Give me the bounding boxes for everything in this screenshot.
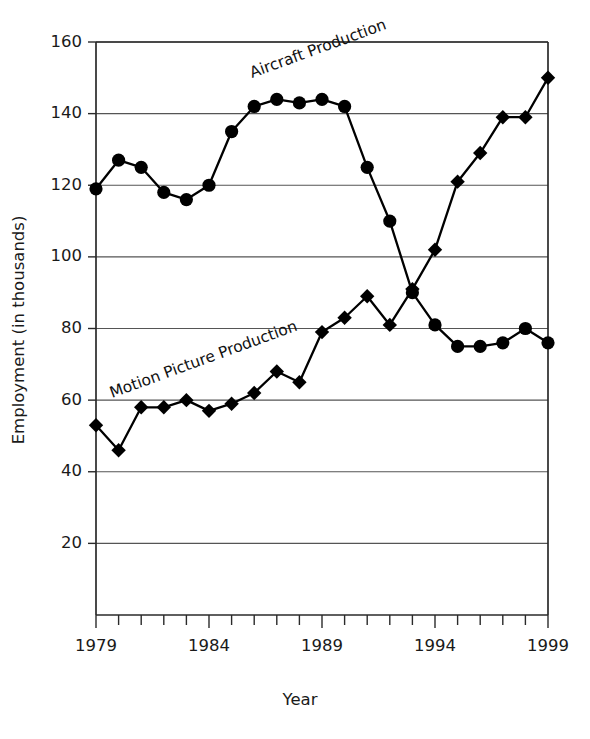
data-point-1982 — [157, 186, 170, 199]
gridline-group — [96, 42, 548, 543]
x-tick-label-1984: 1984 — [188, 636, 230, 655]
data-point-1998 — [519, 322, 532, 335]
data-point-1979 — [89, 182, 102, 195]
data-point-1997 — [496, 336, 509, 349]
series-annotation-group: Aircraft ProductionMotion Picture Produc… — [107, 16, 388, 402]
data-point-1990 — [338, 100, 351, 113]
data-point-1988 — [292, 375, 306, 389]
y-tick-label-120: 120 — [51, 175, 83, 194]
data-point-1995 — [451, 340, 464, 353]
series-line — [96, 78, 548, 450]
x-axis-title: Year — [282, 690, 318, 709]
series-label-motion-picture-production: Motion Picture Production — [107, 317, 299, 402]
x-tick-label-1989: 1989 — [301, 636, 343, 655]
y-tick-label-100: 100 — [51, 246, 83, 265]
x-tick-label-1994: 1994 — [414, 636, 456, 655]
y-tick-label-60: 60 — [61, 390, 82, 409]
data-point-1981 — [134, 400, 148, 414]
data-point-1997 — [496, 110, 510, 124]
y-tick-group: 20406080100120140160 — [51, 32, 97, 552]
data-point-1985 — [224, 397, 238, 411]
series-label-aircraft-production: Aircraft Production — [247, 16, 388, 82]
data-point-1982 — [157, 400, 171, 414]
y-tick-label-160: 160 — [51, 32, 83, 51]
data-point-1988 — [293, 96, 306, 109]
data-point-1992 — [383, 214, 396, 227]
data-point-1983 — [180, 193, 193, 206]
x-tick-group: 19791984198919941999 — [75, 615, 569, 655]
series-aircraft-production — [89, 93, 554, 353]
series-motion-picture-production — [89, 71, 555, 458]
y-tick-label-80: 80 — [61, 318, 82, 337]
employment-line-chart: 20406080100120140160 1979198419891994199… — [0, 0, 590, 739]
data-point-1985 — [225, 125, 238, 138]
data-point-1999 — [541, 336, 554, 349]
data-point-1983 — [179, 393, 193, 407]
chart-figure: 20406080100120140160 1979198419891994199… — [0, 0, 590, 739]
series-line — [96, 99, 548, 346]
data-point-1980 — [112, 154, 125, 167]
data-point-1987 — [270, 93, 283, 106]
data-point-1984 — [202, 404, 216, 418]
data-point-1998 — [518, 110, 532, 124]
data-point-1989 — [315, 93, 328, 106]
x-tick-label-1999: 1999 — [527, 636, 569, 655]
data-series-group — [89, 71, 555, 458]
y-axis-title: Employment (in thousands) — [9, 216, 28, 445]
data-point-1999 — [541, 71, 555, 85]
x-tick-label-1979: 1979 — [75, 636, 117, 655]
data-point-1996 — [474, 340, 487, 353]
y-tick-label-40: 40 — [61, 461, 82, 480]
data-point-1986 — [248, 100, 261, 113]
data-point-1984 — [202, 179, 215, 192]
data-point-1994 — [428, 318, 441, 331]
y-tick-label-20: 20 — [61, 533, 82, 552]
data-point-1991 — [361, 161, 374, 174]
y-tick-label-140: 140 — [51, 103, 83, 122]
data-point-1994 — [428, 243, 442, 257]
data-point-1981 — [135, 161, 148, 174]
data-point-1989 — [315, 325, 329, 339]
